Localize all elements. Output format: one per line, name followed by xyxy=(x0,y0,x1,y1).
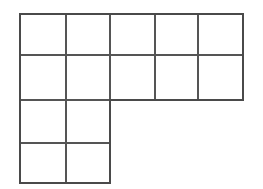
grid-cell xyxy=(20,14,66,55)
grid-cell xyxy=(110,14,155,55)
grid-cell-layer xyxy=(20,14,243,183)
grid-cell xyxy=(20,55,66,100)
grid-cell xyxy=(66,100,110,143)
grid-cell xyxy=(20,143,66,183)
grid-cell xyxy=(198,55,243,100)
grid-cell xyxy=(66,14,110,55)
grid-cell xyxy=(66,143,110,183)
grid-figure-canvas xyxy=(0,0,263,189)
grid-cell xyxy=(155,14,198,55)
grid-cell xyxy=(110,55,155,100)
grid-figure-svg xyxy=(0,0,263,189)
grid-cell xyxy=(66,55,110,100)
grid-cell xyxy=(155,55,198,100)
grid-cell xyxy=(198,14,243,55)
grid-cell xyxy=(20,100,66,143)
